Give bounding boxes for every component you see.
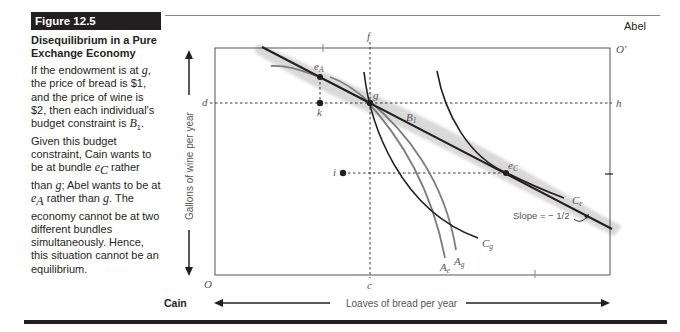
label-Ag: Ag	[453, 255, 465, 269]
point-eA	[317, 74, 323, 80]
label-c: c	[367, 279, 372, 291]
x-axis-left-arrowhead-icon	[214, 299, 223, 307]
y-axis-down-arrowhead-icon	[185, 267, 193, 276]
slope-annotation: Slope = − 1/2	[513, 210, 570, 221]
label-g: g	[373, 89, 379, 101]
label-i: i	[333, 166, 336, 178]
label-d: d	[202, 96, 208, 108]
label-Cg: Cg	[482, 237, 493, 251]
label-f: f	[367, 30, 372, 42]
x-axis-label: Loaves of bread per year	[346, 298, 458, 309]
label-k: k	[317, 106, 323, 118]
edgeworth-box-diagram: f d h O′ O c g k i eA eC B1 Ce Cg Ae Ag …	[0, 0, 680, 332]
edgeworth-box	[215, 48, 610, 275]
bottom-rule	[24, 320, 667, 324]
label-eA: eA	[314, 60, 324, 74]
y-axis-up-arrowhead-icon	[185, 50, 193, 59]
label-Ce: Ce	[572, 194, 583, 208]
label-eC: eC	[508, 159, 519, 173]
label-O-prime: O′	[616, 43, 627, 55]
cain-label: Cain	[164, 297, 187, 309]
label-Ae: Ae	[439, 261, 451, 275]
x-axis-right-arrowhead-icon	[601, 299, 610, 307]
label-h: h	[616, 97, 622, 109]
point-i	[340, 170, 346, 176]
label-B1: B1	[406, 111, 416, 125]
label-O: O	[204, 278, 212, 290]
y-axis-label: Gallons of wine per year	[184, 111, 195, 220]
